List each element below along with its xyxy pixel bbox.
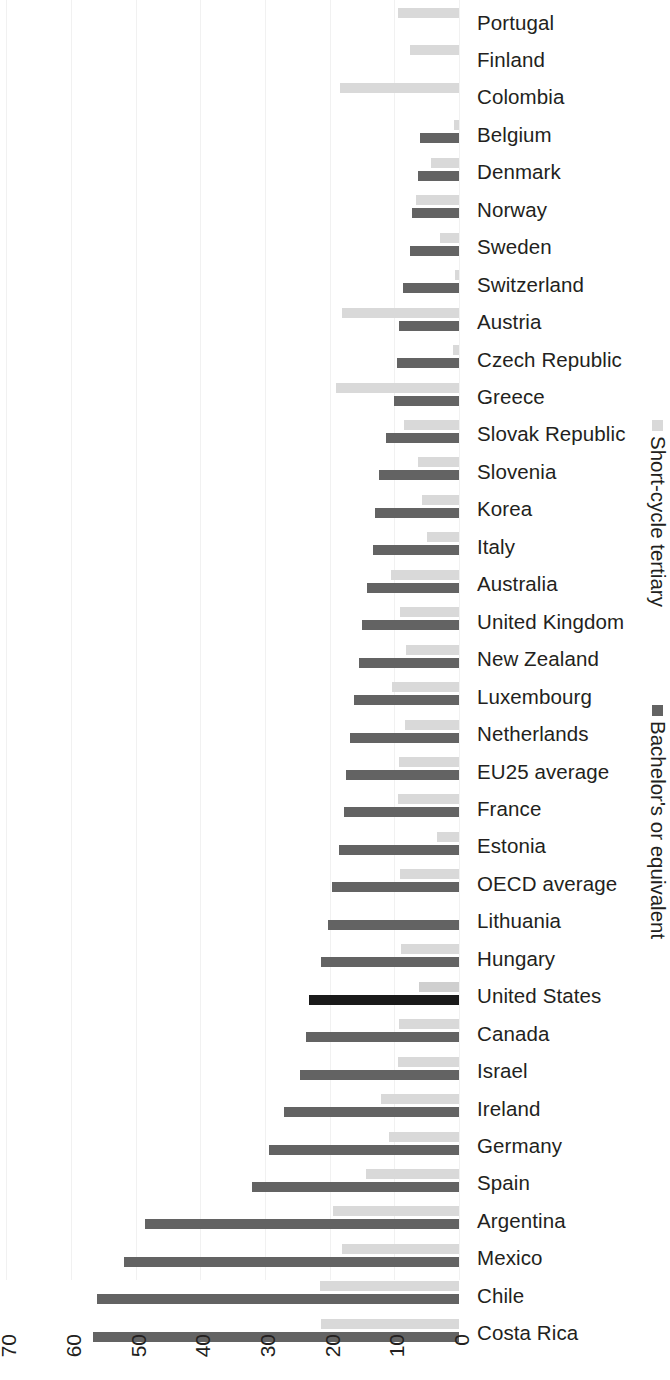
bar-bachelor-or-equivalent (321, 957, 459, 967)
bar-bachelor-or-equivalent (373, 545, 459, 555)
bar-row: Ireland (0, 1090, 670, 1127)
bar-row: Norway (0, 191, 670, 228)
bar-bachelor-or-equivalent (399, 321, 459, 331)
bar-bachelor-or-equivalent (386, 433, 459, 443)
bar-short-cycle-tertiary (398, 8, 459, 18)
country-label: Slovenia (477, 462, 556, 483)
bar-row: United States (0, 978, 670, 1015)
bar-short-cycle-tertiary (342, 1244, 459, 1254)
bar-bachelor-or-equivalent (410, 246, 459, 256)
chart-legend: Short-cycle tertiary Bachelor's or equiv… (634, 420, 668, 960)
country-label: EU25 average (477, 761, 609, 782)
legend-entry-short-cycle-tertiary: Short-cycle tertiary (648, 420, 669, 607)
country-label: Belgium (477, 125, 552, 146)
bar-bachelor-or-equivalent (394, 396, 459, 406)
bar-row: Portugal (0, 4, 670, 41)
bar-bachelor-or-equivalent (403, 283, 459, 293)
x-axis-tick-40: 40 (192, 1334, 213, 1357)
bar-bachelor-or-equivalent (309, 995, 459, 1005)
bar-row: New Zealand (0, 641, 670, 678)
bar-bachelor-or-equivalent (269, 1145, 459, 1155)
bar-short-cycle-tertiary (381, 1094, 459, 1104)
x-axis-tick-10: 10 (386, 1334, 407, 1357)
bar-bachelor-or-equivalent (346, 770, 459, 780)
bar-short-cycle-tertiary (406, 645, 459, 655)
bar-row: Luxembourg (0, 678, 670, 715)
bar-short-cycle-tertiary (405, 720, 459, 730)
bar-short-cycle-tertiary (342, 308, 459, 318)
bar-short-cycle-tertiary (336, 383, 459, 393)
bar-bachelor-or-equivalent (306, 1032, 459, 1042)
bar-row: Mexico (0, 1240, 670, 1277)
country-label: Netherlands (477, 724, 589, 745)
bar-bachelor-or-equivalent (412, 208, 459, 218)
bar-bachelor-or-equivalent (252, 1182, 459, 1192)
x-axis-tick-50: 50 (128, 1334, 149, 1357)
bar-short-cycle-tertiary (320, 1281, 459, 1291)
x-axis-tick-20: 20 (322, 1334, 343, 1357)
bar-row: EU25 average (0, 753, 670, 790)
bar-bachelor-or-equivalent (362, 620, 459, 630)
tertiary-attainment-bar-chart: PortugalFinlandColombiaBelgiumDenmarkNor… (0, 0, 670, 1380)
bar-short-cycle-tertiary (398, 794, 459, 804)
bar-bachelor-or-equivalent (397, 358, 459, 368)
bar-short-cycle-tertiary (400, 869, 459, 879)
bar-row: Austria (0, 304, 670, 341)
country-label: Estonia (477, 836, 546, 857)
bar-bachelor-or-equivalent (418, 171, 459, 181)
country-label: Israel (477, 1061, 528, 1082)
bar-row: Korea (0, 491, 670, 528)
x-axis-tick-0: 0 (451, 1334, 472, 1346)
country-label: Spain (477, 1173, 530, 1194)
bar-bachelor-or-equivalent (328, 920, 459, 930)
bar-bachelor-or-equivalent (344, 807, 459, 817)
legend-entry-bachelor-or-equivalent: Bachelor's or equivalent (648, 705, 669, 939)
bar-row: Lithuania (0, 903, 670, 940)
bar-short-cycle-tertiary (437, 832, 459, 842)
bar-row: Estonia (0, 828, 670, 865)
bar-short-cycle-tertiary (453, 345, 459, 355)
bar-short-cycle-tertiary (392, 682, 459, 692)
bar-row: Netherlands (0, 716, 670, 753)
bar-row: France (0, 790, 670, 827)
country-label: United States (477, 986, 601, 1007)
country-label: Korea (477, 499, 532, 520)
bar-short-cycle-tertiary (440, 233, 459, 243)
bar-bachelor-or-equivalent (379, 470, 459, 480)
bar-row: Slovak Republic (0, 416, 670, 453)
bar-short-cycle-tertiary (333, 1206, 459, 1216)
legend-label-short-cycle: Short-cycle tertiary (648, 436, 669, 607)
bar-short-cycle-tertiary (404, 420, 459, 430)
country-label: United Kingdom (477, 611, 624, 632)
bar-bachelor-or-equivalent (339, 845, 459, 855)
bar-row: Spain (0, 1165, 670, 1202)
bar-short-cycle-tertiary (418, 457, 459, 467)
bar-bachelor-or-equivalent (332, 882, 459, 892)
bar-short-cycle-tertiary (321, 1319, 459, 1329)
bar-bachelor-or-equivalent (354, 695, 459, 705)
bar-short-cycle-tertiary (391, 570, 459, 580)
bar-short-cycle-tertiary (419, 982, 459, 992)
country-label: Canada (477, 1023, 549, 1044)
bar-bachelor-or-equivalent (124, 1257, 459, 1267)
bar-row: Greece (0, 379, 670, 416)
bar-row: Denmark (0, 154, 670, 191)
country-label: Hungary (477, 949, 555, 970)
bar-row: Italy (0, 528, 670, 565)
bar-short-cycle-tertiary (410, 45, 459, 55)
country-label: OECD average (477, 874, 617, 895)
bar-bachelor-or-equivalent (375, 508, 459, 518)
country-label: Italy (477, 537, 515, 558)
legend-swatch-bachelor-icon (652, 705, 663, 716)
bar-short-cycle-tertiary (427, 532, 459, 542)
legend-label-bachelor: Bachelor's or equivalent (648, 721, 669, 939)
bar-short-cycle-tertiary (416, 195, 459, 205)
bar-row: Canada (0, 1015, 670, 1052)
bar-short-cycle-tertiary (400, 607, 459, 617)
bar-bachelor-or-equivalent (350, 733, 459, 743)
bar-row: Colombia (0, 79, 670, 116)
x-axis-tick-70: 70 (0, 1334, 19, 1357)
country-label: Norway (477, 200, 547, 221)
bar-short-cycle-tertiary (431, 158, 459, 168)
bar-row: OECD average (0, 865, 670, 902)
